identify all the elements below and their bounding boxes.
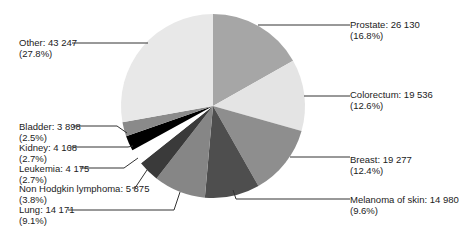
label-nhl: Non Hodgkin lymphoma: 5 875(3.8%) [19, 183, 149, 205]
label-percent: (9.1%) [19, 215, 74, 226]
leader-line [233, 190, 350, 199]
label-other: Other: 43 247(27.8%) [19, 37, 77, 59]
label-value: Lung: 14 171 [19, 204, 74, 215]
label-percent: (27.8%) [19, 48, 77, 59]
label-lung: Lung: 14 171(9.1%) [19, 204, 74, 226]
label-percent: (2.5%) [19, 132, 81, 143]
label-value: Breast: 19 277 [350, 154, 412, 165]
label-prostate: Prostate: 26 130(16.8%) [350, 19, 420, 41]
label-percent: (16.8%) [350, 30, 420, 41]
label-bladder: Bladder: 3 898(2.5%) [19, 121, 81, 143]
label-colorectum: Colorectum: 19 536(12.6%) [350, 89, 433, 111]
label-percent: (9.6%) [350, 205, 459, 216]
pie-slices [121, 14, 305, 198]
label-value: Colorectum: 19 536 [350, 89, 433, 100]
label-percent: (2.7%) [19, 174, 89, 185]
label-percent: (12.6%) [350, 100, 433, 111]
label-value: Other: 43 247 [19, 37, 77, 48]
label-breast: Breast: 19 277(12.4%) [350, 154, 412, 176]
label-percent: (3.8%) [19, 194, 149, 205]
label-leukemia: Leukemia: 4 175(2.7%) [19, 163, 89, 185]
label-value: Bladder: 3 898 [19, 121, 81, 132]
label-value: Prostate: 26 130 [350, 19, 420, 30]
label-value: Leukemia: 4 175 [19, 163, 89, 174]
leader-line [70, 146, 133, 147]
label-kidney: Kidney: 4 168(2.7%) [19, 142, 77, 164]
label-percent: (12.4%) [350, 165, 412, 176]
label-value: Kidney: 4 168 [19, 142, 77, 153]
leader-line [73, 126, 127, 133]
pie-slice-other [121, 14, 213, 122]
label-percent: (2.7%) [19, 153, 77, 164]
label-melanoma: Melanoma of skin: 14 980(9.6%) [350, 194, 459, 216]
label-value: Melanoma of skin: 14 980 [350, 194, 459, 205]
